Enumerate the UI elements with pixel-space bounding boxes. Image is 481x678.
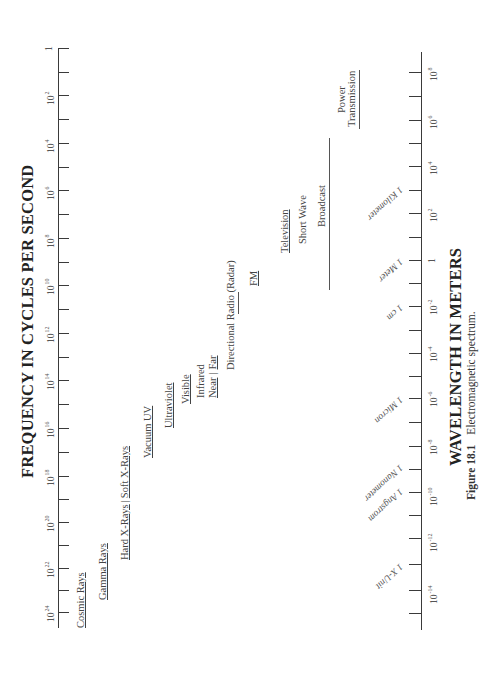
frequency-tick-label: 1016 — [44, 422, 56, 439]
wavelength-minor-tick — [409, 96, 421, 97]
band-cosmic-rays: Cosmic Rays — [75, 572, 86, 628]
frequency-minor-tick — [58, 72, 69, 73]
frequency-major-tick — [58, 612, 69, 613]
wavelength-minor-tick — [409, 143, 421, 144]
wavelength-minor-tick — [409, 283, 421, 284]
band-divider: | — [119, 500, 130, 502]
figure-caption: Figure 18.1Electromagnetic spectrum. — [465, 311, 477, 500]
wavelength-tick-label: 10-14 — [427, 586, 439, 605]
frequency-minor-tick — [58, 357, 69, 358]
power-transmission-range-line — [359, 70, 360, 129]
frequency-tick-label: 1010 — [44, 279, 56, 296]
band-gamma-rays: Gamma Rays — [97, 543, 108, 600]
wavelength-minor-tick — [409, 376, 421, 377]
wavelength-minor-tick — [409, 564, 421, 565]
wavelength-axis-line — [421, 52, 422, 630]
wavelength-tick-label: 10-6 — [427, 392, 439, 408]
wavelength-tick-label: 10-2 — [427, 300, 439, 316]
frequency-minor-tick — [58, 214, 69, 215]
wavelength-minor-tick — [409, 190, 421, 191]
wavelength-marker-label: 1 Meter — [376, 257, 405, 285]
frequency-tick-label: 1022 — [44, 562, 56, 579]
wavelength-minor-tick — [409, 469, 421, 470]
frequency-axis-line — [58, 48, 59, 628]
frequency-tick-label: 104 — [44, 140, 56, 154]
wavelength-tick-label: 10-4 — [427, 347, 439, 363]
band-hard-x-rays: Hard X-Rays — [119, 504, 130, 560]
wavelength-major-tick — [409, 166, 421, 167]
frequency-major-tick — [58, 95, 69, 96]
frequency-tick-label: 108 — [44, 235, 56, 249]
frequency-minor-tick — [58, 262, 69, 263]
frequency-major-tick — [58, 380, 69, 381]
band-short-wave: Short Wave — [297, 195, 308, 244]
wavelength-axis-title: WAVELENGTH IN METERS — [446, 248, 466, 466]
frequency-minor-tick — [58, 167, 69, 168]
band-visible: Visible — [180, 374, 191, 404]
wavelength-tick-label: 10-10 — [427, 488, 439, 507]
wavelength-minor-tick — [409, 422, 421, 423]
frequency-major-tick — [58, 143, 69, 144]
band-fm: FM — [248, 271, 259, 286]
wavelength-major-tick — [409, 120, 421, 121]
wavelength-major-tick — [409, 306, 421, 307]
frequency-axis-title: FREQUENCY IN CYCLES PER SECOND — [18, 165, 38, 478]
wavelength-major-tick — [409, 353, 421, 354]
band-infrared-near-far: Near|Far — [207, 355, 218, 398]
frequency-major-tick — [58, 190, 69, 191]
wavelength-minor-tick — [409, 330, 421, 331]
band-transmission: Transmission — [346, 71, 357, 127]
frequency-tick-label: 1018 — [44, 470, 56, 487]
band-infrared-far: Far — [207, 355, 218, 369]
frequency-minor-tick — [58, 590, 69, 591]
frequency-minor-tick — [58, 545, 69, 546]
frequency-minor-tick — [58, 404, 69, 405]
wavelength-major-tick — [409, 538, 421, 539]
wavelength-tick-label: 10-12 — [427, 534, 439, 553]
wavelength-tick-label: 10-8 — [427, 440, 439, 456]
band-broadcast: Broadcast — [316, 185, 327, 227]
frequency-major-tick — [58, 522, 69, 523]
frequency-major-tick — [58, 48, 69, 49]
wavelength-major-tick — [409, 492, 421, 493]
wavelength-minor-tick — [409, 237, 421, 238]
frequency-major-tick — [58, 285, 69, 286]
wavelength-major-tick — [409, 398, 421, 399]
frequency-tick-label: 1024 — [44, 606, 56, 623]
frequency-major-tick — [58, 568, 69, 569]
frequency-tick-label: 1 — [44, 46, 54, 51]
wavelength-tick-label: 1 — [427, 258, 437, 263]
frequency-tick-label: 106 — [44, 187, 56, 201]
band-vacuum-uv: Vacuum UV — [142, 406, 153, 458]
band-television: Television — [279, 209, 290, 253]
band-infrared-near: Near — [207, 378, 218, 398]
wavelength-tick-label: 102 — [427, 209, 439, 223]
wavelength-minor-tick — [409, 613, 421, 614]
frequency-tick-label: 1012 — [44, 327, 56, 344]
broadcast-range-line — [329, 138, 330, 290]
wavelength-marker-label: 1 X-Unit — [374, 562, 405, 592]
wavelength-major-tick — [409, 590, 421, 591]
frequency-major-tick — [58, 238, 69, 239]
wavelength-major-tick — [409, 213, 421, 214]
wavelength-tick-label: 108 — [427, 68, 439, 82]
wavelength-minor-tick — [409, 515, 421, 516]
figure-caption-text: Electromagnetic spectrum. — [465, 311, 477, 434]
frequency-tick-label: 102 — [44, 92, 56, 106]
wavelength-major-tick — [409, 446, 421, 447]
wavelength-tick-label: 104 — [427, 162, 439, 176]
frequency-minor-tick — [58, 452, 69, 453]
wavelength-major-tick — [409, 260, 421, 261]
frequency-major-tick — [58, 476, 69, 477]
frequency-minor-tick — [58, 309, 69, 310]
wavelength-major-tick — [409, 72, 421, 73]
wavelength-marker-label: 1 cm — [385, 303, 405, 323]
directional-radio-underline — [238, 292, 239, 314]
band-divider: | — [207, 372, 218, 374]
band-infrared: Infrared — [195, 364, 206, 398]
frequency-minor-tick — [58, 119, 69, 120]
wavelength-marker-label: 1 Kilometer — [365, 185, 405, 223]
wavelength-tick-label: 106 — [427, 116, 439, 130]
band-ultraviolet: Ultraviolet — [163, 383, 174, 429]
frequency-minor-tick — [58, 499, 69, 500]
